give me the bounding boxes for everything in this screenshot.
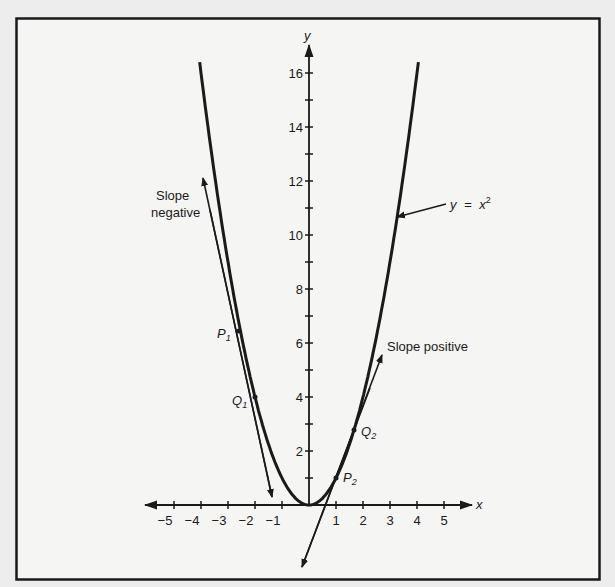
slope-positive-label: Slope positive [387,339,468,354]
curve-equation-label: y = x2 [449,195,491,212]
y-tick-label: 12 [289,174,303,189]
point-q2 [352,428,357,433]
x-tick-label: −5 [158,513,173,528]
x-tick-label: −4 [185,513,200,528]
y-tick-label: 2 [296,444,303,459]
slope-negative-label-line1: Slope [156,188,189,203]
x-tick-label: 3 [386,513,393,528]
x-tick-label: 5 [440,513,447,528]
figure-frame [17,19,600,580]
x-tick-label: −2 [239,513,254,528]
y-tick-label: 8 [296,282,303,297]
y-tick-label: 14 [289,120,303,135]
x-tick-label: 4 [413,513,420,528]
point-p2 [334,476,339,481]
x-tick-label: −1 [266,513,281,528]
y-tick-label: 6 [296,336,303,351]
x-tick-label: 2 [359,513,366,528]
x-tick-label: 1 [332,513,339,528]
point-p1 [237,329,242,334]
parabola-figure: −5−4−3−2−112345 246810121416 x y P1 Q1 P… [0,0,615,587]
x-tick-label: −3 [212,513,227,528]
y-tick-label: 4 [296,390,303,405]
y-tick-label: 16 [289,66,303,81]
x-axis-label: x [475,497,483,512]
y-tick-label: 10 [289,228,303,243]
slope-negative-label-line2: negative [151,205,200,220]
point-q1 [253,395,258,400]
